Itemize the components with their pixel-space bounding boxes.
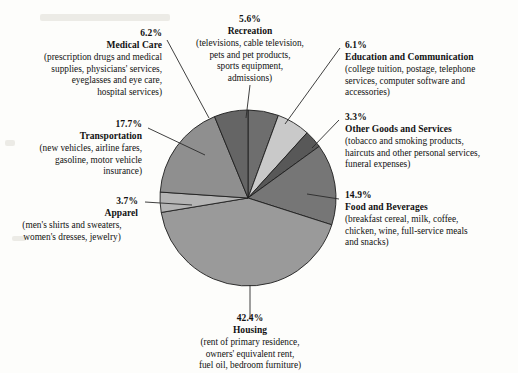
callout-housing: 42.4% Housing — [180, 313, 320, 336]
callout-other-goods: 3.3% Other Goods and Services — [345, 112, 515, 135]
desc-line: insurance) — [8, 166, 142, 178]
desc-line: supplies, physicians' services, — [14, 64, 162, 76]
callout-title-education: Education and Communication — [345, 52, 515, 64]
desc-line: accessories) — [345, 87, 517, 99]
callout-desc-apparel: (men's shirts and sweaters, women's dres… — [6, 220, 138, 243]
callout-title-recreation: Recreation — [185, 26, 315, 38]
desc-line: sports equipment, — [177, 61, 323, 73]
callout-title-other-goods: Other Goods and Services — [345, 124, 515, 136]
desc-line: women's dresses, jewelry) — [6, 232, 138, 244]
callout-title-housing: Housing — [180, 325, 320, 337]
callout-pct-apparel: 3.7% — [20, 196, 138, 208]
callout-desc-food: (breakfast cereal, milk, coffee, chicken… — [345, 214, 517, 249]
desc-line: gasoline, motor vehicle — [8, 155, 142, 167]
desc-line: owners' equivalent rent, — [168, 349, 332, 361]
callout-title-transportation: Transportation — [20, 131, 142, 143]
pie-slices — [160, 110, 336, 286]
desc-line: (college tuition, postage, telephone — [345, 64, 517, 76]
callout-food: 14.9% Food and Beverages — [345, 190, 515, 213]
pie-chart-figure: 6.2% Medical Care (prescription drugs an… — [0, 0, 518, 373]
callout-transportation: 17.7% Transportation — [20, 119, 142, 142]
desc-line: fuel oil, bedroom furniture) — [168, 360, 332, 372]
callout-education: 6.1% Education and Communication — [345, 40, 515, 63]
callout-desc-medical: (prescription drugs and medical supplies… — [14, 52, 162, 98]
desc-line: (breakfast cereal, milk, coffee, — [345, 214, 517, 226]
callout-desc-education: (college tuition, postage, telephone ser… — [345, 64, 517, 99]
desc-line: hospital services) — [14, 87, 162, 99]
callout-desc-housing: (rent of primary residence, owners' equi… — [168, 337, 332, 372]
callout-apparel: 3.7% Apparel — [20, 196, 138, 219]
callout-pct-education: 6.1% — [345, 40, 515, 52]
callout-title-medical: Medical Care — [24, 40, 162, 52]
desc-line: (prescription drugs and medical — [14, 52, 162, 64]
callout-medical-care: 6.2% Medical Care — [24, 28, 162, 51]
desc-line: (new vehicles, airline fares, — [8, 143, 142, 155]
callout-pct-transportation: 17.7% — [20, 119, 142, 131]
desc-line: (men's shirts and sweaters, — [6, 220, 138, 232]
callout-title-apparel: Apparel — [20, 208, 138, 220]
callout-pct-other-goods: 3.3% — [345, 112, 515, 124]
desc-line: (tobacco and smoking products, — [345, 136, 518, 148]
desc-line: funeral expenses) — [345, 159, 518, 171]
callout-title-food: Food and Beverages — [345, 202, 515, 214]
desc-line: (televisions, cable television, — [177, 38, 323, 50]
desc-line: services, computer software and — [345, 76, 517, 88]
desc-line: and snacks) — [345, 237, 517, 249]
callout-recreation: 5.6% Recreation — [185, 14, 315, 37]
desc-line: (rent of primary residence, — [168, 337, 332, 349]
leader-line-other-goods — [312, 120, 339, 148]
callout-pct-recreation: 5.6% — [185, 14, 315, 26]
callout-pct-food: 14.9% — [345, 190, 515, 202]
callout-desc-recreation: (televisions, cable television, pets and… — [177, 38, 323, 84]
desc-line: haircuts and other personal services, — [345, 148, 518, 160]
callout-desc-transportation: (new vehicles, airline fares, gasoline, … — [8, 143, 142, 178]
callout-desc-other-goods: (tobacco and smoking products, haircuts … — [345, 136, 518, 171]
desc-line: admissions) — [177, 73, 323, 85]
desc-line: chicken, wine, full-service meals — [345, 226, 517, 238]
callout-pct-medical: 6.2% — [24, 28, 162, 40]
desc-line: eyeglasses and eye care, — [14, 75, 162, 87]
callout-pct-housing: 42.4% — [180, 313, 320, 325]
desc-line: pets and pet products, — [177, 50, 323, 62]
